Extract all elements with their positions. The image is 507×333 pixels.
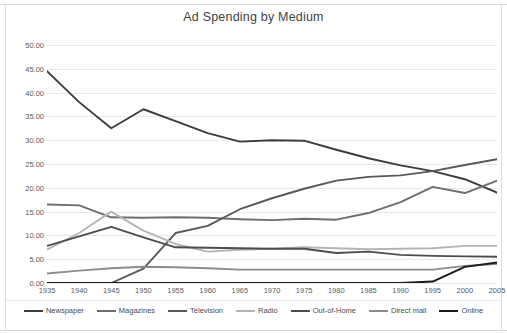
legend-label-online: Online <box>461 306 483 315</box>
x-axis: 1935194019451950195519601965197019751980… <box>47 286 497 300</box>
legend-swatch-out-of-home <box>291 310 310 312</box>
legend-item-magazines[interactable]: Magazines <box>97 306 155 315</box>
x-axis-tick-label: 1990 <box>392 286 409 295</box>
chart-card: Ad Spending by Medium 0.005.0010.0015.00… <box>0 0 507 333</box>
y-axis-tick-label: 5.00 <box>2 255 44 264</box>
y-axis-tick-label: 25.00 <box>2 160 44 169</box>
card-border-top <box>0 4 507 5</box>
legend-label-direct-mail: Direct mail <box>391 306 426 315</box>
y-axis-tick-label: 30.00 <box>2 136 44 145</box>
legend-divider <box>6 300 501 301</box>
y-axis-tick-label: 15.00 <box>2 207 44 216</box>
y-axis-tick-label: 10.00 <box>2 231 44 240</box>
series-line-online <box>47 263 497 283</box>
x-axis-tick-label: 1965 <box>232 286 249 295</box>
x-axis-tick-label: 1995 <box>424 286 441 295</box>
series-line-direct-mail <box>47 264 497 274</box>
legend-swatch-television <box>168 310 187 312</box>
legend-label-out-of-home: Out-of-Home <box>313 306 356 315</box>
plot-area <box>47 45 497 283</box>
line-chart-svg <box>47 45 497 283</box>
legend-swatch-newspaper <box>24 310 43 312</box>
card-border-right <box>501 4 502 331</box>
legend-swatch-online <box>439 310 458 312</box>
series-line-television <box>47 159 497 283</box>
legend-label-magazines: Magazines <box>119 306 155 315</box>
legend-label-television: Television <box>190 306 223 315</box>
x-axis-tick-label: 1980 <box>328 286 345 295</box>
legend-swatch-magazines <box>97 310 116 312</box>
x-axis-tick-label: 2005 <box>489 286 506 295</box>
x-axis-tick-label: 1970 <box>264 286 281 295</box>
x-axis-tick-label: 1935 <box>39 286 56 295</box>
legend-item-online[interactable]: Online <box>439 306 483 315</box>
x-axis-tick-label: 1950 <box>135 286 152 295</box>
y-axis-tick-label: 45.00 <box>2 64 44 73</box>
chart-legend: NewspaperMagazinesTelevisionRadioOut-of-… <box>0 306 507 315</box>
series-line-newspaper <box>47 71 497 192</box>
legend-label-newspaper: Newspaper <box>46 306 84 315</box>
x-axis-tick-label: 1940 <box>71 286 88 295</box>
chart-title: Ad Spending by Medium <box>0 10 507 24</box>
y-axis-tick-label: 50.00 <box>2 41 44 50</box>
legend-label-radio: Radio <box>258 306 278 315</box>
y-axis: 0.005.0010.0015.0020.0025.0030.0035.0040… <box>0 45 44 283</box>
legend-item-out-of-home[interactable]: Out-of-Home <box>291 306 356 315</box>
y-axis-tick-label: 40.00 <box>2 88 44 97</box>
x-axis-tick-label: 1975 <box>296 286 313 295</box>
series-line-out-of-home <box>47 227 497 257</box>
y-axis-tick-label: 35.00 <box>2 112 44 121</box>
card-border-bottom <box>0 330 507 331</box>
gridline <box>47 283 497 284</box>
x-axis-tick-label: 1955 <box>167 286 184 295</box>
legend-swatch-radio <box>236 310 255 312</box>
y-axis-tick-label: 20.00 <box>2 183 44 192</box>
legend-item-newspaper[interactable]: Newspaper <box>24 306 84 315</box>
x-axis-tick-label: 1985 <box>360 286 377 295</box>
x-axis-tick-label: 1945 <box>103 286 120 295</box>
legend-item-television[interactable]: Television <box>168 306 223 315</box>
x-axis-tick-label: 1960 <box>199 286 216 295</box>
legend-swatch-direct-mail <box>369 310 388 312</box>
legend-item-direct-mail[interactable]: Direct mail <box>369 306 426 315</box>
x-axis-tick-label: 2000 <box>457 286 474 295</box>
legend-item-radio[interactable]: Radio <box>236 306 278 315</box>
